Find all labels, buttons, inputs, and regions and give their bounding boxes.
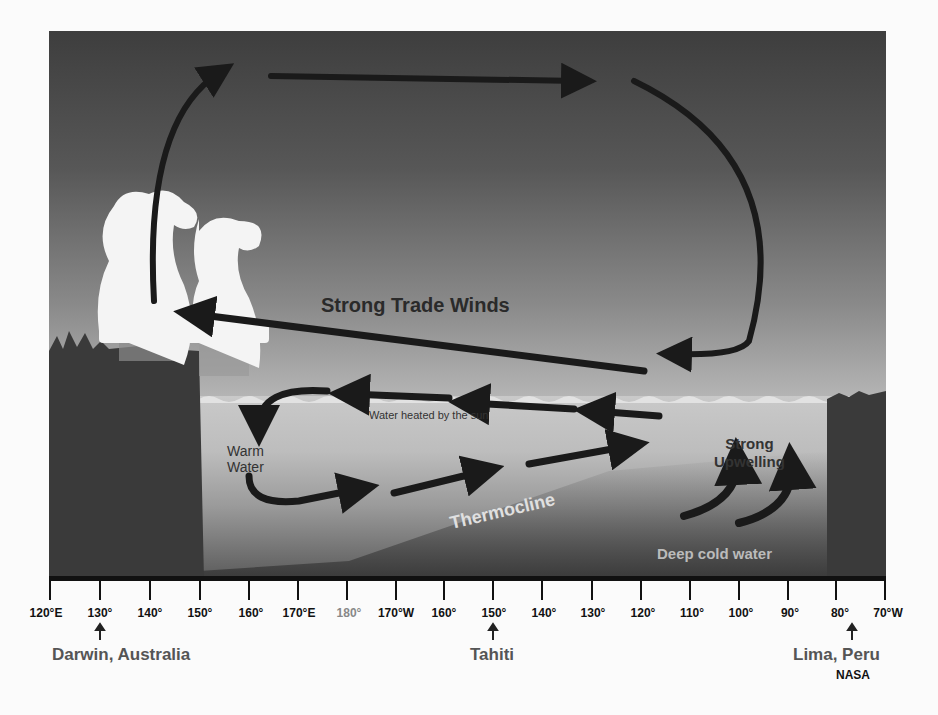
tick-label: 100° (729, 606, 754, 620)
tick-label: 140° (532, 606, 557, 620)
tick-label: 160° (432, 606, 457, 620)
tick-label: 140° (138, 606, 163, 620)
tick-label: 150° (482, 606, 507, 620)
tick-label: 170°W (378, 606, 414, 620)
tick-label: 150° (188, 606, 213, 620)
tick-label: 130° (88, 606, 113, 620)
lima-label: Lima, Peru (793, 645, 880, 665)
tick-label: 80° (831, 606, 849, 620)
tick-label: 160° (239, 606, 264, 620)
tick-label: 90° (781, 606, 799, 620)
darwin-label: Darwin, Australia (52, 645, 190, 665)
tick-label: 110° (680, 606, 704, 620)
tick-label: 120° (631, 606, 656, 620)
tick-label: 180° (337, 606, 362, 620)
tick-label: 130° (581, 606, 606, 620)
tick-label: 170°E (283, 606, 316, 620)
tick-label: 120°E (30, 606, 63, 620)
tahiti-label: Tahiti (470, 645, 514, 665)
tick-label: 70°W (873, 606, 902, 620)
credit-label: NASA (836, 668, 870, 682)
